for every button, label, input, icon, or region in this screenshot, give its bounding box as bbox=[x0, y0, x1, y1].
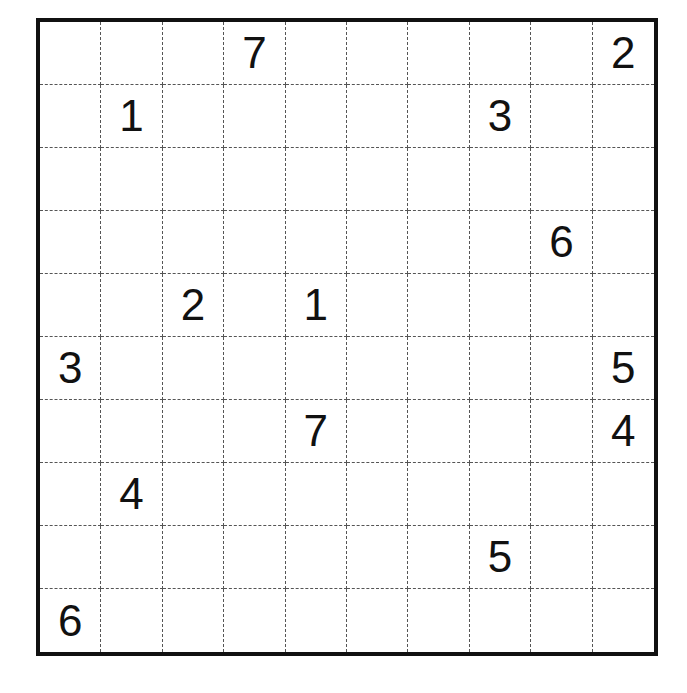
empty-cell[interactable] bbox=[286, 526, 347, 589]
empty-cell[interactable] bbox=[224, 463, 285, 526]
empty-cell[interactable] bbox=[531, 589, 592, 652]
empty-cell[interactable] bbox=[408, 85, 469, 148]
empty-cell[interactable] bbox=[347, 526, 408, 589]
empty-cell[interactable] bbox=[408, 526, 469, 589]
empty-cell[interactable] bbox=[531, 148, 592, 211]
given-cell[interactable]: 1 bbox=[101, 85, 162, 148]
empty-cell[interactable] bbox=[101, 526, 162, 589]
empty-cell[interactable] bbox=[593, 274, 654, 337]
empty-cell[interactable] bbox=[163, 526, 224, 589]
empty-cell[interactable] bbox=[40, 463, 101, 526]
given-cell[interactable]: 2 bbox=[593, 22, 654, 85]
given-cell[interactable]: 2 bbox=[163, 274, 224, 337]
empty-cell[interactable] bbox=[101, 274, 162, 337]
given-cell[interactable]: 5 bbox=[470, 526, 531, 589]
empty-cell[interactable] bbox=[347, 337, 408, 400]
given-cell[interactable]: 6 bbox=[40, 589, 101, 652]
empty-cell[interactable] bbox=[531, 22, 592, 85]
empty-cell[interactable] bbox=[286, 148, 347, 211]
empty-cell[interactable] bbox=[408, 22, 469, 85]
empty-cell[interactable] bbox=[163, 400, 224, 463]
empty-cell[interactable] bbox=[470, 589, 531, 652]
empty-cell[interactable] bbox=[163, 211, 224, 274]
empty-cell[interactable] bbox=[224, 337, 285, 400]
empty-cell[interactable] bbox=[286, 22, 347, 85]
empty-cell[interactable] bbox=[40, 22, 101, 85]
empty-cell[interactable] bbox=[408, 211, 469, 274]
empty-cell[interactable] bbox=[347, 400, 408, 463]
empty-cell[interactable] bbox=[101, 589, 162, 652]
empty-cell[interactable] bbox=[347, 589, 408, 652]
empty-cell[interactable] bbox=[531, 400, 592, 463]
empty-cell[interactable] bbox=[163, 337, 224, 400]
empty-cell[interactable] bbox=[408, 400, 469, 463]
empty-cell[interactable] bbox=[224, 274, 285, 337]
empty-cell[interactable] bbox=[101, 22, 162, 85]
empty-cell[interactable] bbox=[40, 400, 101, 463]
empty-cell[interactable] bbox=[163, 148, 224, 211]
empty-cell[interactable] bbox=[101, 148, 162, 211]
given-cell[interactable]: 3 bbox=[40, 337, 101, 400]
empty-cell[interactable] bbox=[163, 22, 224, 85]
empty-cell[interactable] bbox=[224, 85, 285, 148]
empty-cell[interactable] bbox=[470, 211, 531, 274]
empty-cell[interactable] bbox=[286, 337, 347, 400]
empty-cell[interactable] bbox=[40, 526, 101, 589]
empty-cell[interactable] bbox=[408, 589, 469, 652]
empty-cell[interactable] bbox=[347, 22, 408, 85]
empty-cell[interactable] bbox=[101, 337, 162, 400]
empty-cell[interactable] bbox=[40, 148, 101, 211]
empty-cell[interactable] bbox=[531, 85, 592, 148]
empty-cell[interactable] bbox=[224, 148, 285, 211]
empty-cell[interactable] bbox=[347, 211, 408, 274]
empty-cell[interactable] bbox=[101, 211, 162, 274]
empty-cell[interactable] bbox=[286, 463, 347, 526]
empty-cell[interactable] bbox=[408, 148, 469, 211]
empty-cell[interactable] bbox=[470, 337, 531, 400]
empty-cell[interactable] bbox=[40, 211, 101, 274]
empty-cell[interactable] bbox=[531, 337, 592, 400]
empty-cell[interactable] bbox=[347, 85, 408, 148]
empty-cell[interactable] bbox=[593, 211, 654, 274]
empty-cell[interactable] bbox=[224, 211, 285, 274]
empty-cell[interactable] bbox=[470, 274, 531, 337]
empty-cell[interactable] bbox=[593, 148, 654, 211]
empty-cell[interactable] bbox=[408, 274, 469, 337]
given-cell[interactable]: 7 bbox=[224, 22, 285, 85]
empty-cell[interactable] bbox=[286, 589, 347, 652]
empty-cell[interactable] bbox=[408, 463, 469, 526]
empty-cell[interactable] bbox=[470, 400, 531, 463]
empty-cell[interactable] bbox=[101, 400, 162, 463]
given-cell[interactable]: 5 bbox=[593, 337, 654, 400]
empty-cell[interactable] bbox=[286, 211, 347, 274]
empty-cell[interactable] bbox=[347, 148, 408, 211]
empty-cell[interactable] bbox=[408, 337, 469, 400]
empty-cell[interactable] bbox=[286, 85, 347, 148]
empty-cell[interactable] bbox=[224, 400, 285, 463]
empty-cell[interactable] bbox=[40, 85, 101, 148]
given-cell[interactable]: 4 bbox=[101, 463, 162, 526]
empty-cell[interactable] bbox=[593, 463, 654, 526]
empty-cell[interactable] bbox=[470, 463, 531, 526]
empty-cell[interactable] bbox=[224, 589, 285, 652]
empty-cell[interactable] bbox=[531, 463, 592, 526]
empty-cell[interactable] bbox=[470, 22, 531, 85]
empty-cell[interactable] bbox=[347, 274, 408, 337]
given-cell[interactable]: 4 bbox=[593, 400, 654, 463]
empty-cell[interactable] bbox=[593, 85, 654, 148]
empty-cell[interactable] bbox=[531, 526, 592, 589]
empty-cell[interactable] bbox=[224, 526, 285, 589]
empty-cell[interactable] bbox=[163, 463, 224, 526]
given-cell[interactable]: 7 bbox=[286, 400, 347, 463]
empty-cell[interactable] bbox=[163, 589, 224, 652]
given-cell[interactable]: 6 bbox=[531, 211, 592, 274]
empty-cell[interactable] bbox=[593, 526, 654, 589]
given-cell[interactable]: 3 bbox=[470, 85, 531, 148]
empty-cell[interactable] bbox=[531, 274, 592, 337]
empty-cell[interactable] bbox=[40, 274, 101, 337]
given-cell[interactable]: 1 bbox=[286, 274, 347, 337]
empty-cell[interactable] bbox=[347, 463, 408, 526]
empty-cell[interactable] bbox=[163, 85, 224, 148]
empty-cell[interactable] bbox=[593, 589, 654, 652]
empty-cell[interactable] bbox=[470, 148, 531, 211]
